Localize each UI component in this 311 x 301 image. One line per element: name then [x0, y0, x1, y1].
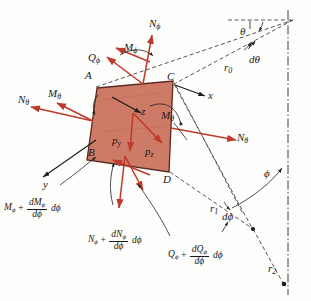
- geometry-label-r1: r1: [210, 203, 218, 216]
- force-label-Q-phi-incremented: Qϕ + dQϕ dϕ dϕ: [168, 245, 223, 266]
- radius-r0-line: [174, 20, 293, 84]
- force-label-Q-phi-top: Qϕ: [88, 52, 100, 65]
- x-axis-arrow: [175, 85, 205, 96]
- axis-label-y: y: [43, 179, 48, 190]
- force-label-M-phi-incremented: Mϕ + dMϕ dϕ dϕ: [4, 198, 61, 219]
- diagram-canvas: [0, 0, 311, 301]
- N-theta-left-vector: [31, 107, 93, 121]
- axis-intersection-dot: [282, 282, 287, 287]
- theta-arc: [259, 22, 263, 31]
- geometry-label-dtheta: dθ: [249, 54, 260, 65]
- phi-pointer: [232, 168, 282, 208]
- axis-label-x: x: [208, 90, 213, 101]
- force-label-N-phi-top: Nϕ: [149, 18, 160, 31]
- Q-phi-incremented-leader: [138, 184, 170, 236]
- radius-r1-line: [170, 172, 253, 229]
- force-label-M-theta-right: Mθ: [161, 110, 174, 123]
- dphi-arc: [224, 202, 230, 210]
- geometry-label-dphi-lower: dϕ: [222, 211, 233, 222]
- force-label-M-theta-left: Mθ: [48, 88, 61, 101]
- load-label-p-z: pz: [145, 146, 154, 159]
- Q-phi-vector: [107, 57, 143, 84]
- M-theta-left-vector: [57, 103, 93, 121]
- geometry-label-r0: r0: [224, 62, 232, 75]
- geometry-label-phi: ϕ: [264, 168, 270, 179]
- force-label-M-phi-top: Mϕ: [124, 42, 137, 55]
- centre-of-curvature-dot: [251, 227, 255, 231]
- vertex-label-D: D: [163, 174, 171, 185]
- load-label-p-y: py: [112, 135, 121, 148]
- vertex-label-C: C: [167, 71, 174, 82]
- geometry-label-theta: θ: [240, 26, 245, 37]
- angle-arcs: [224, 22, 263, 210]
- force-label-N-phi-incremented: Nϕ + dNϕ dϕ dϕ: [88, 230, 142, 251]
- axis-label-z: z: [141, 106, 145, 117]
- force-label-N-theta-left: Nθ: [18, 94, 29, 107]
- vertex-label-B: B: [88, 147, 95, 158]
- geometry-label-r2: r2: [268, 263, 276, 276]
- N-phi-incremented-leader: [110, 163, 114, 205]
- force-label-N-theta-right: Nθ: [237, 132, 248, 145]
- M-theta-right-leader: [174, 123, 187, 140]
- vertex-label-A: A: [85, 70, 92, 81]
- dphi-pointer: [222, 222, 228, 232]
- shell-element-figure: A B C D x y z py pz Nϕ Mϕ Qϕ Nθ Mθ Nθ Mθ…: [0, 0, 311, 301]
